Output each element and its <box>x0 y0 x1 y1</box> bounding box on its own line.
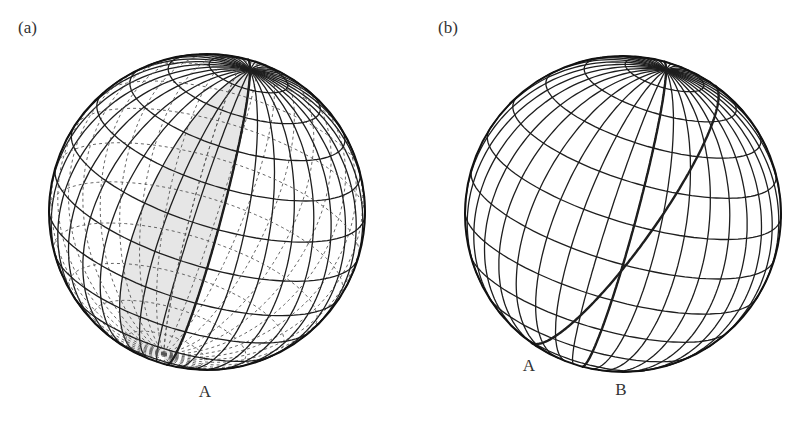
panel-b-point-b-label: B <box>615 380 626 400</box>
meridian-line <box>598 70 690 371</box>
parallel-line <box>237 126 345 160</box>
meridian-line <box>474 69 666 319</box>
parallel-line <box>471 171 623 265</box>
panel-b-label: (b) <box>438 18 458 38</box>
meridian-line <box>488 62 666 132</box>
bold-great-circle <box>582 61 666 366</box>
panel-a-point-a-label: A <box>199 382 211 402</box>
parallel-line <box>602 330 729 342</box>
meridian-line <box>640 70 747 371</box>
bold-great-circle <box>535 86 719 345</box>
panel-b-point-a-label: A <box>523 356 535 376</box>
globes-canvas <box>0 0 806 421</box>
parallel-line <box>207 255 359 281</box>
globe-b-wireframe-sphere <box>465 56 781 372</box>
panel-a-label: (a) <box>18 18 37 38</box>
parallel-line <box>612 298 757 314</box>
meridian-line <box>582 70 666 367</box>
meridian-line <box>666 70 772 349</box>
meridian-line <box>573 70 667 364</box>
meridian-line <box>250 70 363 290</box>
parallel-line <box>623 257 775 279</box>
globe-a-wireframe-sphere <box>49 54 365 370</box>
parallel-line <box>513 97 645 186</box>
meridian-line <box>250 70 353 153</box>
